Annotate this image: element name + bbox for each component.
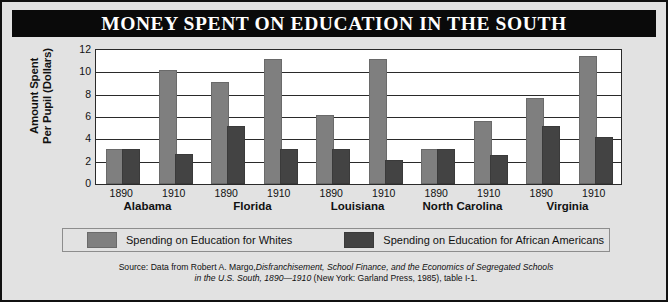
bar-african-americans (122, 149, 140, 185)
x-year-row: 18901910 (305, 187, 410, 199)
source-line1-plain: Source: Data from Robert A. Margo, (119, 262, 256, 272)
legend-swatch-whites-icon (87, 232, 117, 248)
x-year-label: 1910 (253, 187, 306, 199)
page-title: MONEY SPENT ON EDUCATION IN THE SOUTH (101, 13, 567, 35)
x-year-label: 1910 (463, 187, 516, 199)
x-year-label: 1910 (148, 187, 201, 199)
y-axis-title-line1: Amount Spent (28, 31, 41, 161)
legend-label-whites: Spending on Education for Whites (126, 234, 292, 246)
bar-african-americans (542, 126, 560, 184)
x-group-label: Virginia (515, 200, 620, 212)
legend-item-african-americans: Spending on Education for African Americ… (344, 229, 604, 251)
source-line2-italic: in the U.S. South, 1890—1910 (195, 273, 312, 283)
bar-african-americans (175, 154, 193, 184)
y-tick-label: 4 (69, 132, 91, 144)
x-axis-labels: 18901910Alabama18901910Florida18901910Lo… (95, 187, 622, 219)
bar-african-americans (490, 155, 508, 184)
x-group-north-carolina: 18901910North Carolina (410, 187, 515, 212)
bars-layer (96, 50, 621, 184)
bar-african-americans (227, 126, 245, 184)
bar-african-americans (595, 137, 613, 184)
x-group-florida: 18901910Florida (200, 187, 305, 212)
x-year-label: 1890 (515, 187, 568, 199)
y-tick-label: 12 (69, 43, 91, 55)
x-group-label: North Carolina (410, 200, 515, 212)
x-year-label: 1890 (95, 187, 148, 199)
x-year-label: 1890 (410, 187, 463, 199)
source-line2-plain: (New York: Garland Press, 1985), table I… (314, 273, 478, 283)
x-group-label: Florida (200, 200, 305, 212)
y-tick-label: 8 (69, 88, 91, 100)
y-tick-label: 6 (69, 110, 91, 122)
y-tick-label: 0 (69, 177, 91, 189)
legend-item-whites: Spending on Education for Whites (87, 229, 292, 251)
source-line-2: in the U.S. South, 1890—1910 (New York: … (16, 273, 656, 284)
y-axis-ticks: 121086420 (65, 49, 91, 185)
x-year-row: 18901910 (410, 187, 515, 199)
legend-swatch-african-americans-icon (344, 232, 374, 248)
legend-label-african-americans: Spending on Education for African Americ… (383, 234, 604, 246)
chart-legend: Spending on Education for Whites Spendin… (62, 228, 610, 252)
x-year-label: 1910 (358, 187, 411, 199)
bar-african-americans (332, 149, 350, 185)
bar-african-americans (280, 149, 298, 185)
y-tick-label: 10 (69, 65, 91, 77)
x-year-row: 18901910 (515, 187, 620, 199)
chart-figure: MONEY SPENT ON EDUCATION IN THE SOUTH Am… (0, 0, 668, 302)
x-group-alabama: 18901910Alabama (95, 187, 200, 212)
chart-body: Amount Spent Per Pupil (Dollars) 1210864… (12, 41, 656, 221)
y-tick-label: 2 (69, 155, 91, 167)
y-axis-title-line2: Per Pupil (Dollars) (41, 31, 54, 161)
x-group-louisiana: 18901910Louisiana (305, 187, 410, 212)
x-group-virginia: 18901910Virginia (515, 187, 620, 212)
plot-area (95, 49, 622, 185)
x-year-row: 18901910 (95, 187, 200, 199)
bar-african-americans (437, 149, 455, 185)
source-citation: Source: Data from Robert A. Margo,Disfra… (16, 262, 656, 284)
x-year-label: 1890 (305, 187, 358, 199)
x-year-label: 1910 (568, 187, 621, 199)
x-year-row: 18901910 (200, 187, 305, 199)
y-axis-title: Amount Spent Per Pupil (Dollars) (28, 31, 54, 161)
source-line1-italic: Disfranchisement, School Finance, and th… (256, 262, 554, 272)
chart-title-banner: MONEY SPENT ON EDUCATION IN THE SOUTH (12, 10, 656, 37)
x-group-label: Alabama (95, 200, 200, 212)
source-line-1: Source: Data from Robert A. Margo,Disfra… (16, 262, 656, 273)
x-group-label: Louisiana (305, 200, 410, 212)
x-year-label: 1890 (200, 187, 253, 199)
bar-african-americans (385, 160, 403, 184)
